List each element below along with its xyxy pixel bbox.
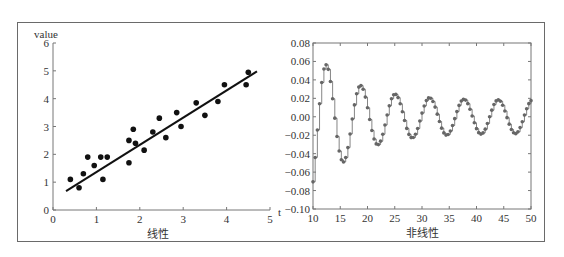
- data-point: [331, 97, 335, 101]
- x-tick-label: 50: [526, 212, 538, 224]
- data-point: [396, 96, 400, 100]
- data-point: [353, 103, 357, 107]
- data-point: [473, 121, 477, 125]
- data-point: [501, 103, 505, 107]
- data-point: [394, 93, 398, 97]
- data-point: [529, 99, 533, 103]
- data-point: [407, 133, 411, 137]
- data-point: [420, 111, 424, 115]
- data-point: [453, 117, 457, 121]
- x-axis-label: 非线性: [406, 226, 439, 240]
- y-tick-label: 0.06: [291, 55, 311, 67]
- data-point: [466, 102, 470, 106]
- data-point: [429, 96, 433, 100]
- data-point: [361, 87, 365, 91]
- data-point: [438, 120, 442, 124]
- data-point: [405, 127, 409, 131]
- data-point: [505, 116, 509, 120]
- data-point: [492, 103, 496, 107]
- data-point: [416, 127, 420, 131]
- data-point: [414, 133, 418, 137]
- data-point: [368, 118, 372, 122]
- plot-area: [313, 43, 531, 209]
- x-tick-label: 45: [498, 212, 510, 224]
- data-point: [318, 102, 322, 106]
- data-point: [366, 106, 370, 110]
- y-tick-label: −0.06: [285, 166, 311, 178]
- data-point: [518, 126, 522, 130]
- x-tick-label: 10: [308, 212, 320, 224]
- data-point: [516, 130, 520, 134]
- x-tick-label: 35: [444, 212, 456, 224]
- data-point: [385, 113, 389, 117]
- data-point: [525, 107, 529, 111]
- data-point: [346, 146, 350, 150]
- y-tick-label: −0.08: [285, 185, 311, 197]
- data-point: [451, 124, 455, 128]
- data-point: [355, 92, 359, 96]
- data-point: [311, 180, 315, 184]
- data-point: [333, 116, 337, 120]
- data-point: [483, 127, 487, 131]
- data-point: [342, 160, 346, 164]
- data-point: [470, 114, 474, 118]
- data-point: [418, 119, 422, 123]
- data-point: [377, 143, 381, 147]
- x-tick-label: 15: [335, 212, 347, 224]
- data-point: [435, 112, 439, 116]
- data-point: [431, 100, 435, 104]
- data-point: [388, 104, 392, 108]
- data-point: [390, 97, 394, 101]
- data-point: [370, 129, 374, 133]
- data-point: [481, 131, 485, 135]
- data-point: [468, 107, 472, 111]
- data-point: [446, 133, 450, 137]
- data-point: [475, 127, 479, 131]
- data-point: [507, 122, 511, 126]
- data-point: [379, 139, 383, 143]
- y-tick-label: 0.08: [291, 37, 311, 49]
- data-point: [316, 128, 320, 132]
- x-tick-label: 30: [417, 212, 429, 224]
- data-point: [422, 104, 426, 108]
- x-tick-label: 40: [471, 212, 483, 224]
- data-point: [464, 98, 468, 102]
- nonlinear-oscillation-chart: 0.080.060.040.020.00−0.02−0.04−0.06−0.08…: [0, 0, 564, 257]
- data-point: [523, 113, 527, 117]
- data-point: [335, 135, 339, 139]
- data-point: [520, 120, 524, 124]
- x-tick-label: 20: [362, 212, 374, 224]
- data-point: [398, 102, 402, 106]
- data-point: [510, 128, 514, 132]
- data-point: [449, 129, 453, 133]
- data-point: [320, 81, 324, 85]
- data-point: [401, 110, 405, 114]
- data-point: [322, 67, 326, 71]
- data-point: [455, 110, 459, 114]
- data-point: [488, 115, 492, 119]
- data-point: [403, 119, 407, 123]
- data-point: [457, 104, 461, 108]
- data-point: [490, 108, 494, 112]
- oscillation-line: [313, 65, 531, 182]
- data-point: [348, 132, 352, 136]
- data-point: [527, 102, 531, 106]
- y-tick-label: −0.04: [285, 148, 311, 160]
- data-point: [503, 109, 507, 113]
- data-point: [337, 149, 341, 153]
- data-point: [364, 95, 368, 99]
- data-point: [440, 126, 444, 130]
- data-point: [411, 136, 415, 140]
- data-point: [433, 105, 437, 109]
- data-point: [324, 63, 328, 67]
- data-point: [372, 137, 376, 141]
- y-tick-label: 0.04: [291, 74, 311, 86]
- x-tick-label: 25: [389, 212, 401, 224]
- y-tick-label: 0.02: [291, 92, 310, 104]
- data-point: [499, 99, 503, 103]
- data-point: [313, 156, 317, 160]
- data-point: [486, 122, 490, 126]
- y-tick-label: 0.00: [291, 111, 311, 123]
- data-point: [350, 117, 354, 121]
- data-point: [344, 156, 348, 160]
